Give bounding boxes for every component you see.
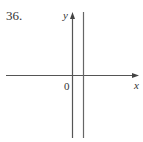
- x-axis-arrow-icon: [132, 73, 139, 78]
- y-axis-arrow-icon: [70, 12, 75, 19]
- graph-canvas: [0, 0, 143, 142]
